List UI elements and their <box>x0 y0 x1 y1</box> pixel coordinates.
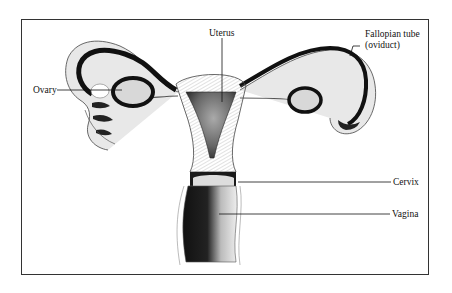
cervix-and-vagina <box>177 172 241 265</box>
label-cervix: Cervix <box>393 177 419 187</box>
label-oviduct: (oviduct) <box>365 40 400 50</box>
label-vagina: Vagina <box>392 209 418 219</box>
right-ovary <box>289 88 321 112</box>
label-ovary: Ovary <box>33 85 57 95</box>
uterus <box>176 75 246 173</box>
label-fallopian-tube: Fallopian tube <box>365 29 420 39</box>
label-uterus: Uterus <box>209 28 234 38</box>
